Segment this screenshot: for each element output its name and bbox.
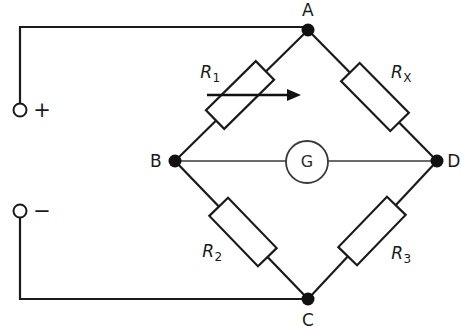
wheatstone-bridge-schematic xyxy=(0,0,465,336)
resistor-label-r2: R2 xyxy=(202,243,221,260)
resistor-label-r1-base: R xyxy=(200,62,212,82)
terminal-sign-negative: − xyxy=(33,201,51,222)
resistor-label-r3: R3 xyxy=(391,245,410,262)
node-label-a: A xyxy=(302,2,314,19)
node-label-d: D xyxy=(447,153,460,170)
resistor-label-r3-base: R xyxy=(391,243,403,263)
circuit-diagram-canvas: A B C D R1 RX R2 R3 G + − xyxy=(0,0,465,336)
terminal-positive[interactable] xyxy=(14,104,27,117)
node-dot-d xyxy=(431,155,444,168)
node-dot-c xyxy=(302,293,315,306)
resistor-label-r1: R1 xyxy=(200,64,219,81)
terminal-negative[interactable] xyxy=(14,205,27,218)
resistor-label-r3-subscript: 3 xyxy=(404,252,412,266)
resistor-label-rx: RX xyxy=(391,64,411,81)
resistor-label-r1-subscript: 1 xyxy=(213,71,221,85)
wire-positive-to-node-a xyxy=(20,27,308,104)
resistor-label-rx-subscript: X xyxy=(403,71,411,85)
node-label-b: B xyxy=(150,153,162,170)
resistor-label-r2-base: R xyxy=(202,241,214,261)
node-dot-b xyxy=(169,155,182,168)
resistor-label-r2-subscript: 2 xyxy=(215,250,223,264)
node-dot-a xyxy=(302,24,315,37)
galvanometer-label: G xyxy=(301,154,313,170)
resistor-label-rx-base: R xyxy=(391,62,403,82)
node-label-c: C xyxy=(302,312,314,329)
terminal-sign-positive: + xyxy=(33,100,51,121)
